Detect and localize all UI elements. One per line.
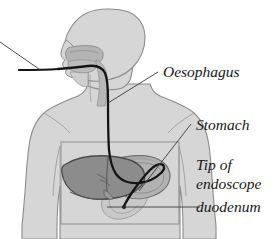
endoscopy-diagram-figure: Oesophagus Stomach Tip of endoscope duod… <box>0 0 277 239</box>
jaw-shape <box>70 72 88 87</box>
duodenum-label: duodenum <box>196 198 261 215</box>
external-cable-leader-line <box>0 42 39 69</box>
oesophagus-label: Oesophagus <box>163 63 240 80</box>
diagram-canvas: Oesophagus Stomach Tip of endoscope duod… <box>0 0 277 239</box>
endoscope-label: endoscope <box>196 175 262 192</box>
tip-of-label: Tip of <box>196 156 234 173</box>
stomach-label: Stomach <box>196 116 250 133</box>
